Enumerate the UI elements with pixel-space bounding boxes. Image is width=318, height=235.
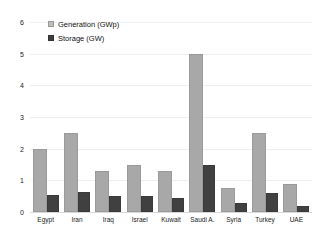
bar-group bbox=[158, 22, 184, 212]
x-axis-tick-label: Egypt bbox=[37, 216, 54, 223]
y-axis-tick-label: 2 bbox=[20, 145, 24, 152]
generation-bar bbox=[127, 165, 141, 213]
x-axis: EgyptIranIraqIsraelKuwaitSaudi A.SyriaTu… bbox=[30, 214, 312, 234]
x-axis-tick-label: Kuwait bbox=[161, 216, 181, 223]
bar-group bbox=[252, 22, 278, 212]
legend-item-label: Storage (GW) bbox=[58, 34, 104, 43]
generation-bar bbox=[189, 54, 203, 212]
x-axis-tick-label: UAE bbox=[290, 216, 303, 223]
x-axis-tick-label: Israel bbox=[132, 216, 148, 223]
y-axis-tick-label: 6 bbox=[20, 19, 24, 26]
generation-bar bbox=[221, 188, 235, 212]
storage-bar bbox=[203, 165, 215, 213]
storage-swatch-icon bbox=[48, 35, 54, 41]
x-axis-tick-label: Iraq bbox=[103, 216, 114, 223]
x-axis-tick-label: Turkey bbox=[255, 216, 275, 223]
legend-item[interactable]: Storage (GW) bbox=[48, 32, 119, 44]
storage-bar bbox=[109, 196, 121, 212]
generation-bar bbox=[158, 171, 172, 212]
x-axis-tick-label: Iran bbox=[71, 216, 82, 223]
storage-bar bbox=[266, 193, 278, 212]
bar-chart: 6543210 EgyptIranIraqIsraelKuwaitSaudi A… bbox=[0, 0, 318, 235]
bar-group bbox=[64, 22, 90, 212]
chart-legend: Generation (GWp)Storage (GW) bbox=[48, 18, 119, 46]
bar-group bbox=[127, 22, 153, 212]
gridline bbox=[30, 212, 312, 213]
plot-area bbox=[30, 22, 312, 212]
generation-bar bbox=[283, 184, 297, 213]
generation-swatch-icon bbox=[48, 21, 54, 27]
x-axis-tick-label: Syria bbox=[226, 216, 241, 223]
storage-bar bbox=[297, 206, 309, 212]
storage-bar bbox=[141, 196, 153, 212]
y-axis: 6543210 bbox=[0, 0, 30, 235]
y-axis-tick-label: 0 bbox=[20, 209, 24, 216]
bar-group bbox=[283, 22, 309, 212]
y-axis-tick-label: 1 bbox=[20, 177, 24, 184]
generation-bar bbox=[252, 133, 266, 212]
bar-group bbox=[95, 22, 121, 212]
legend-item-label: Generation (GWp) bbox=[58, 20, 119, 29]
y-axis-tick-label: 3 bbox=[20, 114, 24, 121]
storage-bar bbox=[47, 195, 59, 212]
storage-bar bbox=[172, 198, 184, 212]
bar-group bbox=[221, 22, 247, 212]
y-axis-tick-label: 5 bbox=[20, 50, 24, 57]
storage-bar bbox=[78, 192, 90, 212]
x-axis-tick-label: Saudi A. bbox=[190, 216, 214, 223]
legend-item[interactable]: Generation (GWp) bbox=[48, 18, 119, 30]
y-axis-tick-label: 4 bbox=[20, 82, 24, 89]
generation-bar bbox=[33, 149, 47, 212]
generation-bar bbox=[64, 133, 78, 212]
generation-bar bbox=[95, 171, 109, 212]
storage-bar bbox=[235, 203, 247, 213]
bar-group bbox=[33, 22, 59, 212]
bar-group bbox=[189, 22, 215, 212]
